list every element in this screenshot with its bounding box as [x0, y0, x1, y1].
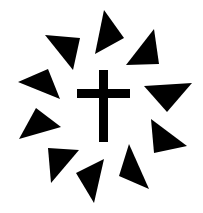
cross-with-triangles-emblem [0, 0, 203, 213]
cross-horizontal-bar [77, 89, 130, 98]
cross-vertical-bar [99, 70, 108, 142]
